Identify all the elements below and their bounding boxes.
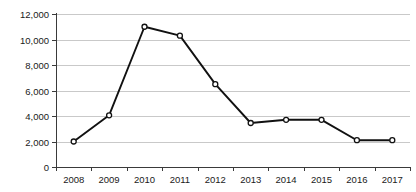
data-point-marker xyxy=(71,139,76,144)
x-tick-label: 2014 xyxy=(276,174,297,185)
x-tick-label: 2016 xyxy=(346,174,367,185)
x-tick-label: 2010 xyxy=(134,174,155,185)
data-point-marker xyxy=(354,138,359,143)
data-point-marker xyxy=(213,82,218,87)
data-point-marker xyxy=(142,24,147,29)
x-tick-label: 2009 xyxy=(99,174,120,185)
data-point-marker xyxy=(319,117,324,122)
chart-background xyxy=(0,0,416,192)
x-tick-label: 2017 xyxy=(382,174,403,185)
y-tick-label: 2,000 xyxy=(25,137,49,148)
chart-canvas: 02,0004,0006,0008,00010,00012,000 200820… xyxy=(0,0,416,192)
y-tick-label: 10,000 xyxy=(20,35,49,46)
data-point-marker xyxy=(248,121,253,126)
x-tick-label: 2015 xyxy=(311,174,332,185)
x-tick-label: 2008 xyxy=(63,174,84,185)
line-chart: 02,0004,0006,0008,00010,00012,000 200820… xyxy=(0,0,416,192)
x-tick-label: 2013 xyxy=(240,174,261,185)
x-tick-label: 2012 xyxy=(205,174,226,185)
data-point-marker xyxy=(177,33,182,38)
data-point-marker xyxy=(284,117,289,122)
y-tick-label: 12,000 xyxy=(20,9,49,20)
data-point-marker xyxy=(107,113,112,118)
y-tick-label: 6,000 xyxy=(25,86,49,97)
y-tick-label: 0 xyxy=(44,162,49,173)
y-tick-label: 8,000 xyxy=(25,60,49,71)
y-tick-label: 4,000 xyxy=(25,111,49,122)
data-point-marker xyxy=(390,138,395,143)
x-tick-label: 2011 xyxy=(170,174,190,185)
